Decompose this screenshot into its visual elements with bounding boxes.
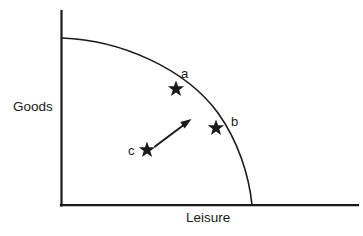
x-axis-label: Leisure [186,210,230,225]
y-axis-label: Goods [13,99,53,114]
figure-background [0,0,363,236]
point-a-label: a [181,66,189,81]
point-b-label: b [231,114,238,129]
ppf-diagram: Goods Leisure a b c [0,0,363,236]
point-c-label: c [128,143,135,158]
